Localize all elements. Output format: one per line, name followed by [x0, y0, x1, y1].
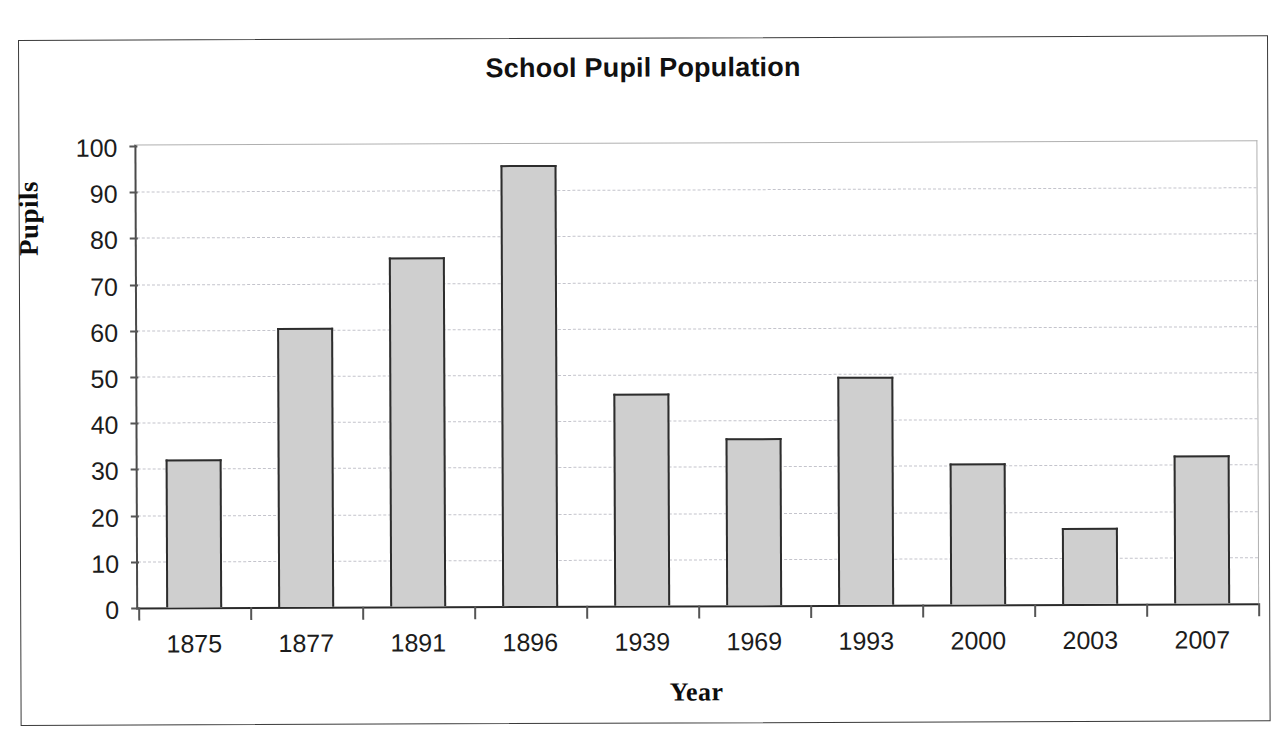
y-axis-tick-label: 90 — [48, 180, 118, 209]
x-axis-tick-label: 1891 — [362, 628, 474, 657]
bar-slot — [1032, 142, 1146, 604]
x-axis-tick-label: 1939 — [586, 627, 698, 656]
bar-slot — [472, 144, 586, 606]
chart-title: School Pupil Population — [19, 50, 1267, 86]
bar[interactable] — [277, 327, 334, 607]
bar[interactable] — [1174, 456, 1231, 604]
bar[interactable] — [166, 459, 223, 607]
plot-area: 1009080706050403020100 18751877189118961… — [134, 140, 1259, 609]
x-axis-tick — [586, 606, 588, 619]
x-axis-tick-label: 2007 — [1146, 625, 1258, 654]
x-axis-tick — [474, 606, 476, 619]
y-axis-tick-label: 80 — [48, 226, 118, 255]
bar-slot — [360, 144, 474, 606]
figure-frame: School Pupil Population Pupils 100908070… — [18, 35, 1271, 726]
bar[interactable] — [613, 394, 670, 606]
bar-slot — [696, 143, 810, 605]
x-axis-tick — [138, 608, 140, 621]
x-axis-title: Year — [136, 675, 1256, 709]
x-axis-tick — [698, 605, 700, 618]
x-axis-tick — [250, 607, 252, 620]
x-axis-tick — [1258, 603, 1260, 616]
x-axis-tick — [810, 605, 812, 618]
bar-slot — [1144, 141, 1258, 603]
bars-layer — [136, 141, 1258, 607]
x-axis-tick — [362, 607, 364, 620]
y-axis-title: Pupils — [14, 181, 45, 256]
x-axis-tick-label: 1969 — [698, 627, 810, 656]
bar-slot — [136, 145, 250, 607]
bar[interactable] — [389, 258, 446, 607]
bar[interactable] — [1062, 528, 1118, 604]
bar-slot — [248, 145, 362, 607]
y-axis-tick-label: 10 — [49, 549, 119, 578]
x-axis-tick-label: 2003 — [1034, 626, 1146, 655]
y-axis-tick-label: 70 — [48, 272, 118, 301]
bar-slot — [920, 142, 1034, 604]
y-axis-tick-label: 100 — [47, 134, 117, 163]
x-axis-labels: 1875187718911896193919691993200020032007 — [138, 625, 1258, 658]
y-axis-tick-label: 20 — [49, 503, 119, 532]
x-axis-tick-label: 1875 — [138, 629, 250, 658]
bar-slot — [808, 143, 922, 605]
x-axis-tick — [1146, 604, 1148, 617]
x-axis-tick-label: 1993 — [810, 627, 922, 656]
bar[interactable] — [726, 438, 783, 605]
y-axis-tick-label: 30 — [49, 457, 119, 486]
bar-slot — [584, 143, 698, 605]
x-axis-tick-label: 1877 — [250, 629, 362, 658]
x-axis-tick — [1034, 604, 1036, 617]
scan-artifact-bottom — [0, 728, 1287, 746]
bar[interactable] — [500, 165, 558, 606]
x-axis-tick — [922, 605, 924, 618]
y-axis-tick-label: 40 — [48, 411, 118, 440]
bar[interactable] — [837, 377, 894, 605]
scan-artifact-top — [0, 0, 1287, 3]
y-axis-tick-label: 0 — [49, 596, 119, 625]
x-axis-tick-label: 2000 — [922, 626, 1034, 655]
y-axis-tick-label: 50 — [48, 365, 118, 394]
bar[interactable] — [950, 463, 1007, 604]
x-axis-tick-label: 1896 — [474, 628, 586, 657]
y-axis-tick-label: 60 — [48, 318, 118, 347]
